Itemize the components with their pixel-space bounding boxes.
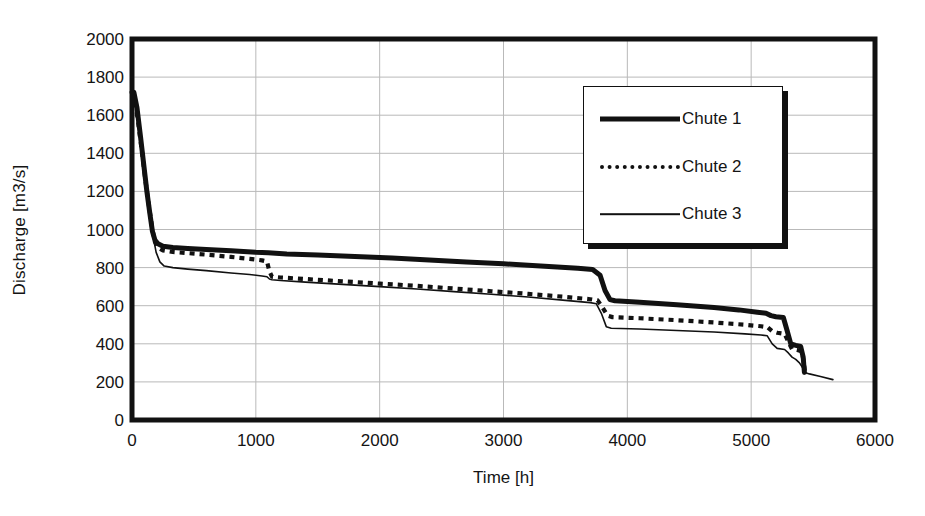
legend-label: Chute 1 [682, 109, 742, 129]
legend-item-chute-2: Chute 2 [584, 147, 782, 187]
legend-item-chute-3: Chute 3 [584, 194, 782, 234]
legend-label: Chute 2 [682, 157, 742, 177]
chart-figure: Discharge [m3/s] 2000 1800 1600 1400 120… [0, 0, 925, 516]
legend-label: Chute 3 [682, 204, 742, 224]
chart-legend: Chute 1 Chute 2 Chute 3 [583, 86, 783, 244]
legend-item-chute-1: Chute 1 [584, 99, 782, 139]
legend-line-dotted-icon [600, 160, 680, 174]
legend-line-thin-solid-icon [600, 207, 680, 221]
legend-line-thick-solid-icon [600, 112, 680, 126]
plot-area [0, 0, 925, 516]
